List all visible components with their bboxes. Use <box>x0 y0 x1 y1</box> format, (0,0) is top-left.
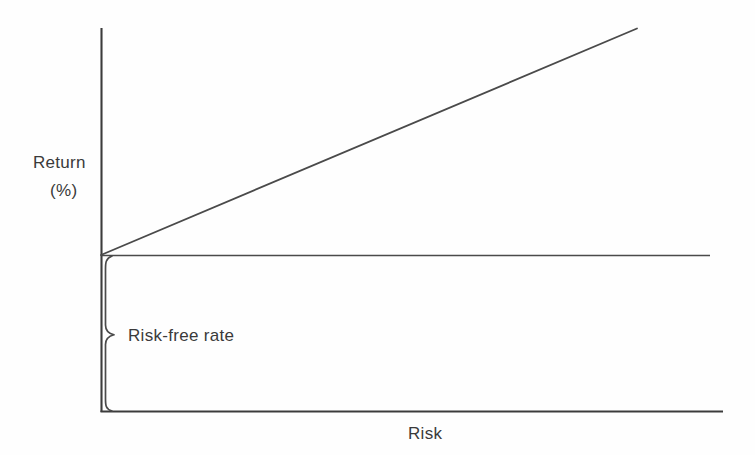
x-axis-label-risk: Risk <box>408 424 442 443</box>
chart-background <box>0 0 755 455</box>
y-axis-label-return: Return <box>33 153 86 172</box>
risk-return-chart: Return (%) Risk-free rate Risk <box>0 0 755 455</box>
risk-free-rate-label: Risk-free rate <box>128 326 234 345</box>
y-axis-label-units: (%) <box>50 181 77 200</box>
chart-canvas: Return (%) Risk-free rate Risk <box>0 0 755 455</box>
